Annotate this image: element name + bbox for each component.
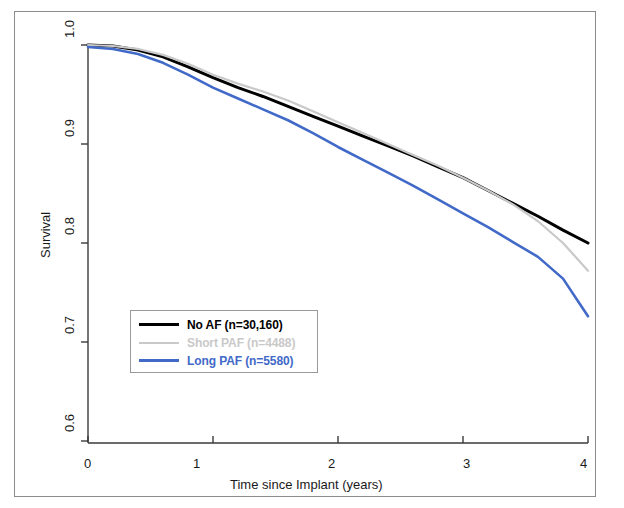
survival-chart-figure: Survival 1.0 0.9 0.8 0.7 0.6 0 1 2 3 4 T…	[0, 0, 624, 508]
legend-label-no-af: No AF (n=30,160)	[187, 318, 283, 332]
curve-long-paf	[88, 47, 588, 316]
legend-label-short-paf: Short PAF (n=4488)	[187, 336, 295, 350]
curve-short-paf	[88, 45, 588, 271]
legend-entry-long-paf: Long PAF (n=5580)	[139, 352, 309, 369]
curve-no-af	[88, 45, 588, 243]
chart-legend: No AF (n=30,160) Short PAF (n=4488) Long…	[130, 310, 318, 373]
survival-curves-group	[88, 45, 588, 316]
legend-entry-short-paf: Short PAF (n=4488)	[139, 334, 309, 351]
legend-entry-no-af: No AF (n=30,160)	[139, 316, 309, 333]
legend-swatch-short-paf	[139, 342, 179, 344]
legend-swatch-long-paf	[139, 359, 179, 362]
legend-swatch-no-af	[139, 323, 179, 326]
plot-canvas	[0, 0, 624, 508]
legend-label-long-paf: Long PAF (n=5580)	[187, 354, 293, 368]
